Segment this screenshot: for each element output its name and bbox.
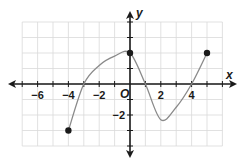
x-tick-label: −2 (93, 89, 106, 101)
data-point (127, 50, 133, 56)
tick-labels: −6−4−224−2 (31, 89, 195, 121)
function-curve (68, 51, 207, 130)
function-graph: −6−4−224−2 x y O (0, 0, 244, 165)
x-tick-label: 2 (158, 89, 164, 101)
axes (8, 11, 237, 158)
data-point (204, 50, 210, 56)
y-axis-label: y (135, 6, 144, 20)
x-tick-label: −6 (31, 89, 44, 101)
x-tick-label: 4 (189, 89, 196, 101)
data-point (65, 127, 71, 133)
y-tick-label: −2 (112, 109, 125, 121)
x-axis-label: x (225, 68, 234, 82)
x-tick-label: −4 (62, 89, 75, 101)
origin-label: O (120, 87, 130, 101)
